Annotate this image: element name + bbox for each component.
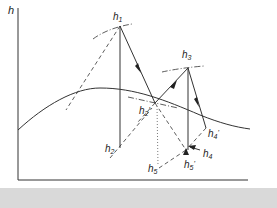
label-h1: h1 <box>113 11 123 23</box>
h-s-diagram: h S h1 h2 h2' h3 h4' h4 h5 h5' <box>0 0 277 188</box>
label-h4-prime: h4' <box>208 128 219 140</box>
bottom-strip <box>0 188 277 208</box>
dashed-h4p-h5p <box>186 128 206 150</box>
label-h3: h3 <box>182 49 192 61</box>
dashed-h2p-h5p <box>155 103 186 150</box>
label-h4: h4 <box>203 148 213 160</box>
label-h2: h2 <box>105 143 115 155</box>
dotted-h2p-h5 <box>157 106 158 166</box>
isobar-arc-h3 <box>162 66 204 72</box>
label-h5: h5 <box>148 163 158 175</box>
label-h5-prime: h5' <box>184 159 195 171</box>
dashed-h5-h5p <box>159 150 186 168</box>
isobar-arc-h1 <box>93 24 132 39</box>
label-h2-prime: h2' <box>139 105 150 117</box>
axes <box>18 8 248 180</box>
y-axis-label: h <box>8 4 14 16</box>
saturation-curve <box>18 88 250 130</box>
